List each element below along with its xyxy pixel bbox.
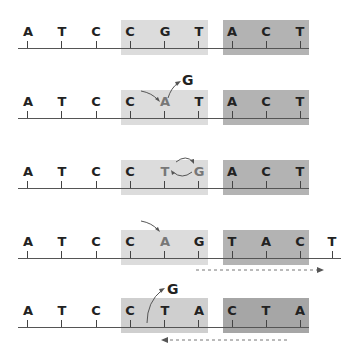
deletion-arrows-icon [0, 280, 349, 350]
tick [61, 41, 62, 48]
tick [198, 41, 199, 48]
base-9: T [292, 25, 308, 39]
base-2: T [54, 25, 70, 39]
tick [266, 41, 267, 48]
base-3: C [88, 25, 104, 39]
base-6: T [191, 25, 207, 39]
sequence-row-5: A T C C T A C T A G [0, 280, 349, 350]
sequence-row-1: A T C C G T A C T [0, 0, 349, 70]
sequence-row-2: A T C C A T A C T G [0, 70, 349, 140]
sequence-row-4: A T C C A G T A C T [0, 210, 349, 280]
insertion-arrow-icon [0, 210, 349, 280]
tick [232, 41, 233, 48]
tick [130, 41, 131, 48]
tick [96, 41, 97, 48]
tick [164, 41, 165, 48]
base-4: C [122, 25, 138, 39]
sequence-row-3: A T C C T G A C T [0, 140, 349, 210]
dna-strand-line [18, 48, 309, 49]
substitution-arrows-icon [0, 70, 349, 140]
swap-arrows-icon [0, 140, 349, 210]
base-7: A [224, 25, 240, 39]
base-1: A [20, 25, 36, 39]
base-5: G [157, 25, 173, 39]
tick [27, 41, 28, 48]
tick [300, 41, 301, 48]
base-8: C [258, 25, 274, 39]
